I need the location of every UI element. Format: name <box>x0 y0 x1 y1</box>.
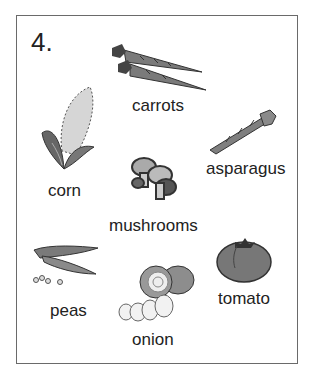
mushrooms-label: mushrooms <box>109 216 198 236</box>
corn-icon <box>38 85 100 175</box>
onion-label: onion <box>132 330 174 350</box>
tomato-label: tomato <box>218 289 270 309</box>
peas-icon <box>30 244 102 288</box>
mushrooms-icon <box>130 155 180 205</box>
onion-icon <box>118 262 198 324</box>
peas-label: peas <box>50 301 87 321</box>
carrots-label: carrots <box>132 96 184 116</box>
carrots-icon <box>110 42 210 94</box>
tomato-icon <box>215 234 273 284</box>
asparagus-label: asparagus <box>206 159 285 179</box>
exercise-number: 4. <box>31 27 53 58</box>
asparagus-icon <box>208 108 278 156</box>
corn-label: corn <box>48 181 81 201</box>
